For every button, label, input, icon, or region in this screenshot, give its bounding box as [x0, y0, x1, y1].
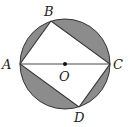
geometry-diagram: A B C D O: [0, 0, 131, 127]
label-d: D: [73, 110, 85, 125]
label-b: B: [43, 4, 54, 19]
center-point: [63, 62, 67, 66]
label-o: O: [59, 69, 70, 84]
label-a: A: [1, 57, 11, 72]
label-c: C: [113, 57, 123, 72]
